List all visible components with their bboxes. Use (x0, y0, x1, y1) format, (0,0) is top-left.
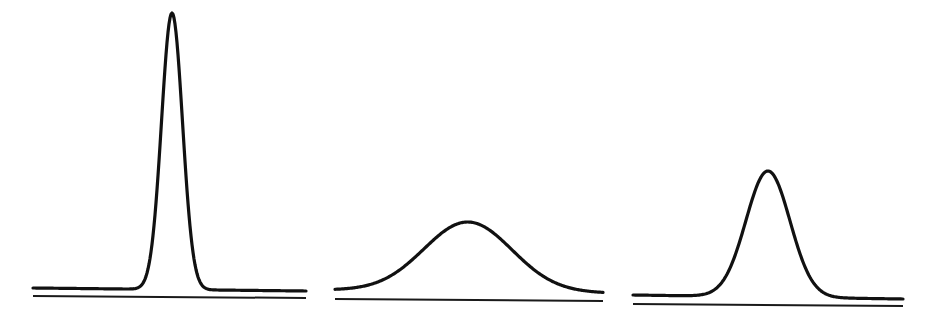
baseline-axis (33, 296, 306, 298)
panel-narrow-tall-peak (33, 13, 306, 298)
peak-curve (33, 13, 306, 291)
baseline-axis (335, 299, 603, 301)
peaks-diagram (0, 0, 928, 323)
peak-curve (335, 222, 603, 292)
panel-broad-low-peak (335, 222, 603, 301)
peak-curve (633, 171, 903, 299)
baseline-axis (633, 304, 903, 306)
panel-medium-peak (633, 171, 903, 306)
figure (0, 0, 928, 323)
